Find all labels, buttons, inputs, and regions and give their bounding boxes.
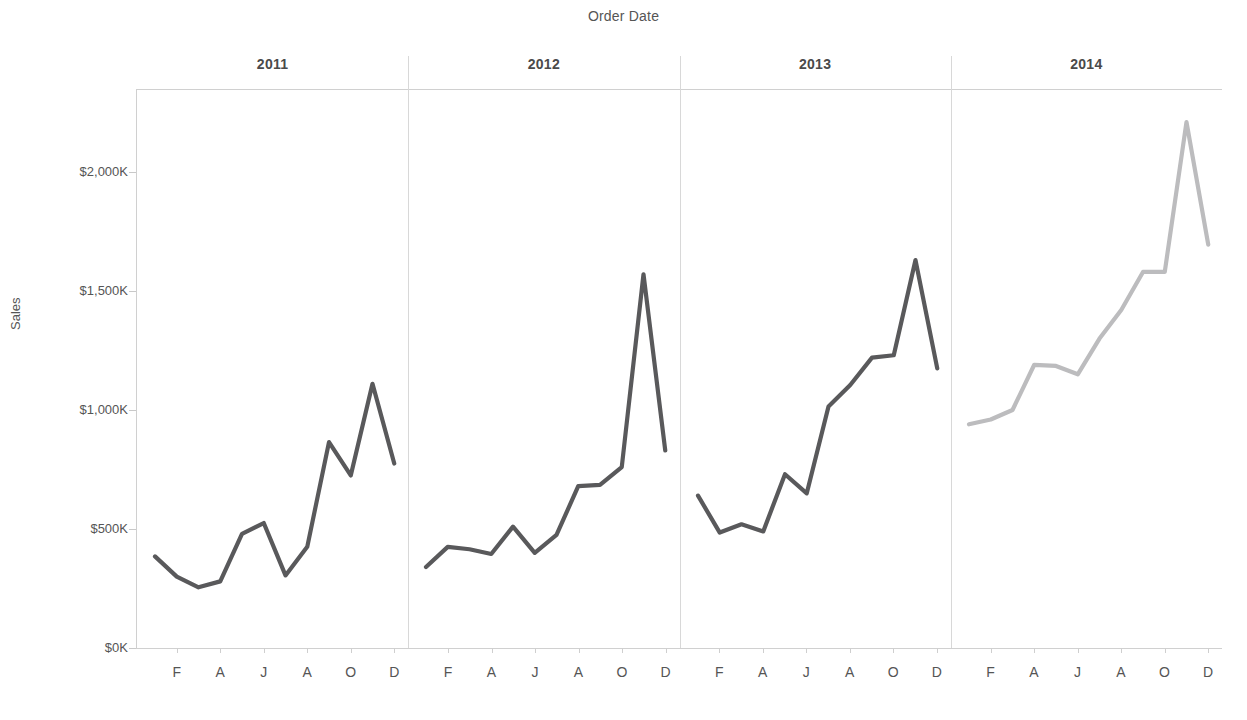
x-tick-mark — [719, 648, 720, 653]
series-line-2014 — [951, 90, 1222, 648]
x-tick-mark — [893, 648, 894, 653]
x-tick-label: D — [382, 664, 406, 680]
x-tick-label: F — [707, 664, 731, 680]
x-tick-mark — [850, 648, 851, 653]
x-tick-label: F — [979, 664, 1003, 680]
x-tick-mark — [177, 648, 178, 653]
panel-header-2012: 2012 — [408, 56, 679, 82]
x-tick-mark — [666, 648, 667, 653]
column-field-title: Order Date — [0, 8, 1247, 24]
x-tick-mark — [1165, 648, 1166, 653]
x-tick-mark — [991, 648, 992, 653]
x-tick-mark — [1034, 648, 1035, 653]
plot-area — [137, 90, 1222, 648]
x-tick-label: J — [252, 664, 276, 680]
panel-2012 — [408, 90, 679, 648]
line-path-2011[interactable] — [155, 384, 394, 587]
y-axis-tick-labels: $0K$500K$1,000K$1,500K$2,000K — [18, 0, 128, 720]
x-tick-mark — [394, 648, 395, 653]
x-tick-label: A — [751, 664, 775, 680]
series-line-2011 — [137, 90, 408, 648]
x-tick-mark — [806, 648, 807, 653]
x-tick-label: F — [436, 664, 460, 680]
y-tick-label: $1,000K — [20, 402, 128, 417]
x-tick-label: J — [794, 664, 818, 680]
x-tick-label: D — [925, 664, 949, 680]
x-tick-label: A — [567, 664, 591, 680]
x-tick-label: D — [654, 664, 678, 680]
x-tick-label: J — [523, 664, 547, 680]
x-tick-mark — [579, 648, 580, 653]
x-tick-label: J — [1066, 664, 1090, 680]
x-axis-line — [136, 648, 1222, 649]
x-tick-label: A — [838, 664, 862, 680]
x-tick-mark — [535, 648, 536, 653]
line-path-2013[interactable] — [698, 260, 937, 533]
x-tick-mark — [492, 648, 493, 653]
panel-2014 — [951, 90, 1222, 648]
x-tick-label: O — [1153, 664, 1177, 680]
x-tick-label: O — [610, 664, 634, 680]
y-tick-label: $0K — [20, 640, 128, 655]
y-tick-mark — [129, 172, 136, 173]
y-tick-mark — [129, 529, 136, 530]
x-tick-mark — [448, 648, 449, 653]
panel-header-2014: 2014 — [951, 56, 1222, 82]
x-tick-label: O — [339, 664, 363, 680]
y-tick-label: $500K — [20, 521, 128, 536]
x-tick-label: A — [295, 664, 319, 680]
y-tick-label: $1,500K — [20, 283, 128, 298]
x-tick-label: D — [1196, 664, 1220, 680]
x-tick-mark — [937, 648, 938, 653]
x-tick-mark — [307, 648, 308, 653]
y-tick-mark — [129, 291, 136, 292]
y-tick-mark — [129, 648, 136, 649]
panel-header-2013: 2013 — [680, 56, 951, 82]
series-line-2013 — [680, 90, 951, 648]
series-line-2012 — [408, 90, 679, 648]
x-tick-mark — [1078, 648, 1079, 653]
x-tick-label: A — [480, 664, 504, 680]
y-tick-mark — [129, 410, 136, 411]
x-tick-mark — [264, 648, 265, 653]
chart-canvas: Order Date 2011201220132014 Sales $0K$50… — [0, 0, 1247, 720]
x-tick-label: A — [1022, 664, 1046, 680]
x-tick-label: O — [881, 664, 905, 680]
panel-2013 — [680, 90, 951, 648]
x-tick-mark — [1121, 648, 1122, 653]
x-tick-mark — [1208, 648, 1209, 653]
x-tick-label: F — [165, 664, 189, 680]
line-path-2014[interactable] — [969, 122, 1208, 424]
x-tick-mark — [220, 648, 221, 653]
x-tick-label: A — [208, 664, 232, 680]
line-path-2012[interactable] — [426, 274, 665, 567]
x-tick-mark — [351, 648, 352, 653]
x-tick-label: A — [1109, 664, 1133, 680]
y-tick-label: $2,000K — [20, 164, 128, 179]
x-tick-mark — [763, 648, 764, 653]
panel-header-2011: 2011 — [137, 56, 408, 82]
x-tick-mark — [622, 648, 623, 653]
panel-2011 — [137, 90, 408, 648]
